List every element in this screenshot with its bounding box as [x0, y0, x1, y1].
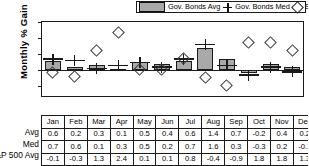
chart-column [238, 22, 260, 96]
chart-column [151, 22, 173, 96]
legend-label-dia: S&P 500 Avg. [305, 3, 308, 10]
marker-sp500-avg [264, 36, 277, 49]
chart-column [260, 22, 282, 96]
table-cell: 0.8 [179, 153, 202, 166]
table-cell: 1.8 [270, 153, 293, 166]
chart-column [42, 22, 64, 96]
marker-gov-bonds-med [108, 60, 128, 71]
y-axis-title: Monthly % Gain [18, 0, 29, 85]
table-header-cell: Feb [64, 116, 87, 129]
table-cell: -0.3 [64, 153, 87, 166]
table-cell: 0.6 [179, 128, 202, 141]
table-cell: 0.4 [270, 128, 293, 141]
table-cell: -0.3 [248, 141, 271, 154]
table-header-cell: Sep [225, 116, 248, 129]
table-cell: -0.9 [225, 153, 248, 166]
table-header-cell: Oct [248, 116, 271, 129]
chart-column [173, 22, 195, 96]
chart-column [216, 22, 238, 96]
marker-sp500-avg [68, 70, 81, 83]
table-header-cell: Jan [42, 116, 65, 129]
table-row-label: Med [0, 139, 39, 151]
table-cell: 0.3 [87, 128, 110, 141]
table-cell: 0.6 [42, 128, 65, 141]
table-cell: 0.5 [133, 128, 156, 141]
diamond-marker-icon [291, 1, 304, 14]
chart-column [129, 22, 151, 96]
table-cell: 0.2 [270, 141, 293, 154]
table-cell: -0.2 [248, 128, 271, 141]
table-header-cell: Jun [156, 116, 179, 129]
marker-sp500-avg [90, 44, 103, 57]
legend-label-bar: Gov. Bonds Avg [168, 3, 220, 10]
marker-gov-bonds-med [239, 70, 259, 81]
table-row: -0.1-0.31.32.40.10.10.8-0.4-0.91.81.81.3 [42, 153, 309, 166]
table-header-cell: Aug [202, 116, 225, 129]
table-header-cell: May [133, 116, 156, 129]
table-cell: 1.8 [248, 153, 271, 166]
table-cell: 0.1 [156, 153, 179, 166]
chart-column [194, 22, 216, 96]
table-cell: 0.7 [179, 141, 202, 154]
table-cell: 0.2 [64, 128, 87, 141]
table-header-cell: Apr [110, 116, 133, 129]
table-row-label: Avg [0, 127, 39, 139]
table-cell: 0.1 [87, 141, 110, 154]
table-header-cell: Nov [270, 116, 293, 129]
table-cell: 1.4 [202, 128, 225, 141]
plus-marker-icon [223, 3, 232, 12]
marker-gov-bonds-med [87, 63, 107, 74]
marker-sp500-avg [112, 26, 125, 39]
chart-column [107, 22, 129, 96]
table-cell: 1.6 [202, 141, 225, 154]
table-header-row: JanFebMarAprMayJunJulAugSepOctNovDec [42, 116, 309, 129]
table-cell: 0.7 [42, 141, 65, 154]
data-table: JanFebMarAprMayJunJulAugSepOctNovDec0.60… [41, 115, 308, 166]
chart-legend: Gov. Bonds Avg Gov. Bonds Med S&P 500 Av… [136, 1, 306, 13]
table-cell: 0.3 [225, 141, 248, 154]
table-cell: 1.3 [87, 153, 110, 166]
table-cell: 0.2 [293, 128, 308, 141]
marker-sp500-avg [221, 79, 234, 92]
marker-gov-bonds-med [195, 39, 215, 50]
legend-label-med: Gov. Bonds Med [235, 3, 290, 10]
table-cell: 0.1 [133, 153, 156, 166]
plot-area: 3.02.01.00.0-1.0 [41, 21, 304, 97]
table-cell: 0.6 [64, 141, 87, 154]
table-cell: 0.3 [110, 141, 133, 154]
marker-sp500-avg [286, 44, 299, 57]
marker-gov-bonds-med [282, 66, 302, 77]
table-header-cell: Jul [179, 116, 202, 129]
table-cell: 0.7 [225, 128, 248, 141]
table-cell: 0.2 [156, 141, 179, 154]
table-row-label: S&P 500 Avg [0, 150, 39, 162]
chart-figure: Gov. Bonds Avg Gov. Bonds Med S&P 500 Av… [0, 0, 308, 166]
marker-sp500-avg [199, 71, 212, 84]
marker-sp500-avg [242, 36, 255, 49]
table-row: 0.60.20.30.10.50.40.61.40.7-0.20.40.2 [42, 128, 309, 141]
marker-gov-bonds-med [261, 62, 281, 73]
table-row: 0.70.60.10.30.50.20.71.60.3-0.30.2-0.1 [42, 141, 309, 154]
table-cell: 1.3 [293, 153, 308, 166]
table-header-cell: Dec [293, 116, 308, 129]
bar-swatch-icon [139, 2, 165, 12]
marker-gov-bonds-med [65, 55, 85, 66]
marker-gov-bonds-med [217, 60, 237, 71]
table-cell: -0.1 [293, 141, 308, 154]
table-cell: 0.4 [156, 128, 179, 141]
table-header-cell: Mar [87, 116, 110, 129]
chart-column [64, 22, 86, 96]
marker-gov-bonds-med [43, 54, 63, 65]
table-cell: -0.1 [42, 153, 65, 166]
chart-column [86, 22, 108, 96]
table-cell: 0.5 [133, 141, 156, 154]
bar-gov-bonds-avg [197, 48, 213, 71]
table-cell: 2.4 [110, 153, 133, 166]
chart-column [281, 22, 303, 96]
table-cell: 0.1 [110, 128, 133, 141]
table-cell: -0.4 [202, 153, 225, 166]
